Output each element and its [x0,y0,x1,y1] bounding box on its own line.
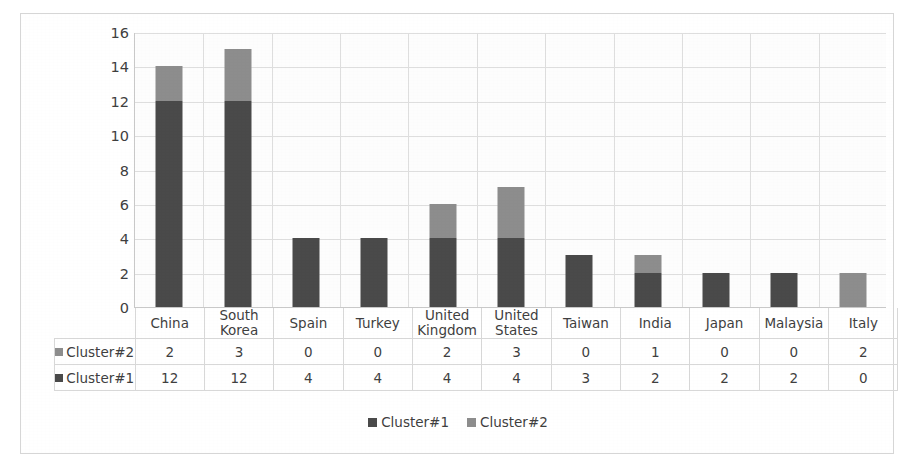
bar-segment-cluster1[interactable] [566,255,593,307]
bar-segment-cluster2[interactable] [634,255,661,272]
data-cell: 2 [690,365,759,391]
bar-segment-cluster2[interactable] [497,187,524,239]
bar-column[interactable] [545,33,613,307]
bar-segment-cluster1[interactable] [497,238,524,307]
bar-column[interactable] [750,33,818,307]
legend-item[interactable]: Cluster#2 [467,414,548,430]
bar-column[interactable] [135,33,203,307]
bar-stack[interactable] [497,187,524,307]
y-axis-tick-label: 8 [89,164,129,178]
bar-segment-cluster2[interactable] [224,49,251,101]
category-label: Italy [829,308,898,339]
data-cell: 3 [551,365,620,391]
data-cell: 0 [829,365,898,391]
series-row-label: Cluster#2 [55,339,136,365]
bar-stack[interactable] [566,255,593,307]
bar-column[interactable] [682,33,750,307]
data-cell: 2 [135,339,204,365]
data-table: ChinaSouth KoreaSpainTurkeyUnited Kingdo… [54,308,886,384]
legend-color-swatch-icon [467,418,476,427]
bar-column[interactable] [819,33,887,307]
bar-column[interactable] [203,33,271,307]
bar-stack[interactable] [292,238,319,307]
data-cell: 0 [551,339,620,365]
data-cell: 4 [343,365,412,391]
bar-stack[interactable] [361,238,388,307]
category-label: Malaysia [759,308,828,339]
y-axis: 1614121086420 [81,33,129,308]
bar-stack[interactable] [839,273,866,307]
series-color-swatch-icon [55,374,63,382]
bar-segment-cluster2[interactable] [156,66,183,100]
data-cell: 3 [482,339,551,365]
data-cell: 2 [621,365,690,391]
series-row-label: Cluster#1 [55,365,136,391]
data-cell: 4 [412,365,481,391]
bar-segment-cluster1[interactable] [292,238,319,307]
bar-column[interactable] [272,33,340,307]
y-axis-tick-label: 10 [89,129,129,143]
plot-area-wrapper [134,33,886,308]
bar-column[interactable] [340,33,408,307]
table-row: Cluster#223002301002 [55,339,898,365]
y-axis-tick-label: 4 [89,232,129,246]
y-axis-tick-label: 16 [89,26,129,40]
table-corner-cell [55,308,136,339]
data-cell: 0 [274,339,343,365]
series-name: Cluster#2 [66,344,134,360]
bar-column[interactable] [477,33,545,307]
series-name: Cluster#1 [66,370,134,386]
category-label: United States [482,308,551,339]
legend-label: Cluster#1 [381,414,449,430]
y-axis-tick-label: 6 [89,198,129,212]
bar-stack[interactable] [771,273,798,307]
category-label: Turkey [343,308,412,339]
legend-color-swatch-icon [368,418,377,427]
bar-segment-cluster1[interactable] [156,101,183,307]
bar-column[interactable] [614,33,682,307]
data-table-body: ChinaSouth KoreaSpainTurkeyUnited Kingdo… [55,308,898,391]
data-cell: 12 [204,365,273,391]
bar-segment-cluster1[interactable] [703,273,730,307]
data-cell: 12 [135,365,204,391]
category-label: Taiwan [551,308,620,339]
bar-segment-cluster1[interactable] [361,238,388,307]
legend-label: Cluster#2 [480,414,548,430]
data-cell: 4 [482,365,551,391]
bar-stack[interactable] [703,273,730,307]
data-cell: 0 [343,339,412,365]
plot-area [134,33,886,308]
category-label: United Kingdom [412,308,481,339]
bar-stack[interactable] [634,255,661,307]
category-label: India [621,308,690,339]
bar-segment-cluster1[interactable] [634,273,661,307]
y-axis-tick-label: 14 [89,60,129,74]
y-axis-tick-label: 12 [89,95,129,109]
category-label: Japan [690,308,759,339]
data-cell: 3 [204,339,273,365]
bar-stack[interactable] [224,49,251,307]
data-cell: 2 [829,339,898,365]
bar-segment-cluster1[interactable] [224,101,251,307]
bar-stack[interactable] [429,204,456,307]
bar-column[interactable] [408,33,476,307]
bar-segment-cluster1[interactable] [771,273,798,307]
y-axis-tick-label: 2 [89,267,129,281]
data-cell: 1 [621,339,690,365]
data-cell: 0 [690,339,759,365]
data-cell: 4 [274,365,343,391]
bar-segment-cluster2[interactable] [429,204,456,238]
bar-segment-cluster2[interactable] [839,273,866,307]
legend-item[interactable]: Cluster#1 [368,414,449,430]
data-table-grid: ChinaSouth KoreaSpainTurkeyUnited Kingdo… [54,308,898,391]
bar-stack[interactable] [156,66,183,307]
category-header-row: ChinaSouth KoreaSpainTurkeyUnited Kingdo… [55,308,898,339]
data-cell: 2 [759,365,828,391]
table-row: Cluster#11212444432220 [55,365,898,391]
bar-segment-cluster1[interactable] [429,238,456,307]
chart-legend: Cluster#1Cluster#2 [21,414,895,430]
chart-frame: 1614121086420 ChinaSouth KoreaSpainTurke… [20,13,894,454]
data-cell: 0 [759,339,828,365]
series-color-swatch-icon [55,348,63,356]
category-label: China [135,308,204,339]
